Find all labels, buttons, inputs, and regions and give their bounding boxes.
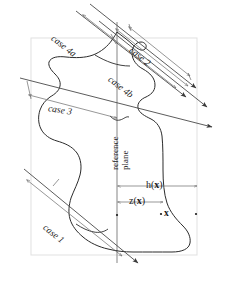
- point-marker-surface: [195, 213, 197, 215]
- diagram-canvas: [0, 0, 233, 282]
- bounding-box: [31, 38, 197, 255]
- figure-root: case 4a case 4b case 2 case 3 case 1 ref…: [0, 0, 233, 282]
- contour-notch-upper: [95, 55, 130, 66]
- ray-case-1: [24, 169, 138, 263]
- point-marker-origin: [116, 214, 118, 216]
- ray-case-4b: [90, 4, 196, 88]
- point-marker-x: [160, 213, 162, 215]
- ray-case-4a: [76, 11, 186, 97]
